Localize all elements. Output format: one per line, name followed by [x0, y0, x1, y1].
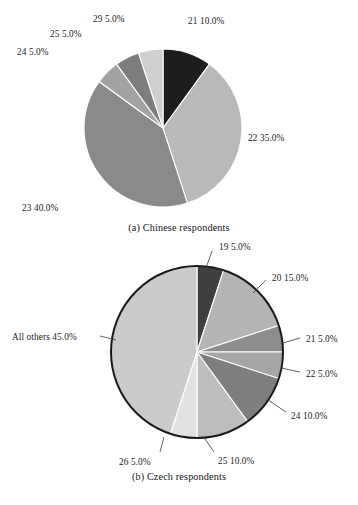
chart-a-label-23: 23 40.0% [22, 203, 58, 214]
chart-b-label-25: 25 10.0% [218, 456, 254, 467]
chart-a-label-24: 24 5.0% [17, 47, 49, 58]
leader-22 [281, 368, 300, 372]
leader-25 [205, 439, 214, 452]
chart-b-label-26: 26 5.0% [119, 457, 151, 468]
leader-24 [268, 400, 286, 412]
caption-chart-b: (b) Czech respondents [0, 471, 358, 482]
chart-a-label-25: 25 5.0% [50, 29, 82, 40]
leader-20 [253, 280, 266, 293]
chart-a-label-29: 29 5.0% [93, 14, 125, 25]
chart-b-label-21: 21 5.0% [306, 334, 338, 345]
leader-21 [283, 338, 300, 343]
chart-b-label-19: 19 5.0% [219, 242, 251, 253]
chart-a-label-21: 21 10.0% [188, 16, 224, 27]
chart-b-label-24: 24 10.0% [291, 411, 327, 422]
leader-19 [206, 251, 212, 268]
leader-26 [160, 437, 164, 452]
chart-b-label-20: 20 15.0% [272, 273, 308, 284]
figure-two-pie-charts: (a) Chinese respondents (b) Czech respon… [0, 0, 358, 505]
chart-b-label-22: 22 5.0% [306, 369, 338, 380]
chart-b-label-all-others: All others 45.0% [12, 332, 77, 343]
chart-a-label-22: 22 35.0% [248, 133, 284, 144]
